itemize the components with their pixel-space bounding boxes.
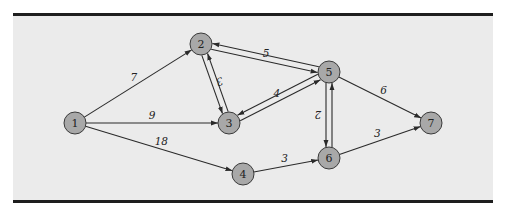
node-5: 5	[318, 61, 340, 83]
edge-3-to-5: 4	[240, 80, 320, 121]
arrow-line	[84, 50, 191, 117]
node-6: 6	[318, 147, 340, 169]
edge-4-to-6: 3	[254, 152, 318, 172]
node-3: 3	[218, 112, 240, 134]
edge-3-to-2	[208, 53, 229, 111]
node-label: 4	[240, 168, 247, 181]
edge-1-to-2: 7	[84, 50, 191, 117]
node-label: 5	[326, 66, 333, 79]
node-label: 2	[198, 38, 205, 51]
edge-1-to-3: 9	[86, 109, 218, 123]
network-diagram: 79185342633 1234567	[0, 0, 507, 210]
node-2: 2	[190, 33, 212, 55]
node-7: 7	[420, 112, 442, 134]
edge-weight-label: 5	[263, 47, 270, 59]
edge-weight-label: 9	[149, 109, 156, 121]
node-label: 1	[72, 117, 79, 130]
edge-weight-label: 6	[380, 84, 387, 96]
arrow-line	[240, 80, 320, 121]
edge-weight-label: 3	[281, 152, 288, 164]
node-label: 3	[226, 117, 233, 130]
edge-2-to-5: 5	[211, 47, 318, 72]
edge-5-to-3	[237, 74, 317, 115]
node-label: 7	[428, 117, 435, 130]
arrow-line	[339, 77, 421, 118]
arrow-line	[86, 126, 233, 171]
edge-2-to-3: 3	[202, 55, 225, 113]
node-1: 1	[64, 112, 86, 134]
edge-weight-label: 3	[374, 127, 381, 139]
arrow-line	[237, 74, 317, 115]
node-label: 6	[326, 152, 333, 165]
node-4: 4	[232, 163, 254, 185]
edge-6-to-7: 3	[339, 127, 420, 155]
edge-5-to-7: 6	[339, 77, 421, 118]
edge-1-to-4: 18	[86, 126, 233, 171]
edge-weight-label: 7	[130, 71, 137, 83]
edge-5-to-6: 2	[314, 83, 326, 147]
edge-weight-label: 2	[314, 109, 322, 121]
arrow-line	[208, 53, 229, 111]
edge-weight-label: 18	[155, 135, 169, 147]
